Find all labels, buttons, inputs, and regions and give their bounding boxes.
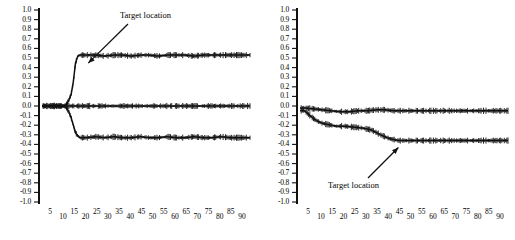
x-tick-label: 20	[82, 213, 90, 220]
x-tick-label: 75	[463, 208, 471, 215]
x-tick-label: 85	[227, 208, 235, 215]
x-tick-label: 20	[340, 213, 348, 220]
x-tick-label: 55	[418, 208, 426, 215]
x-tick-label: 80	[474, 213, 482, 220]
chart-panel-right: 1.00.90.80.70.60.50.40.30.20.10.0-0.1-0.…	[258, 0, 515, 240]
x-tick-label: 10	[59, 213, 67, 220]
x-tick-label: 80	[216, 213, 224, 220]
x-tick-label: 5	[306, 208, 310, 215]
x-tick-label: 35	[115, 208, 123, 215]
x-tick-label: 50	[149, 213, 157, 220]
chart-panel-left: 1.00.90.80.70.60.50.40.30.20.10.0-0.1-0.…	[0, 0, 257, 240]
x-tick-label: 40	[384, 213, 392, 220]
x-tick-label: 45	[138, 208, 146, 215]
x-tick-label: 30	[362, 213, 370, 220]
x-tick-label: 25	[93, 208, 101, 215]
x-tick-label: 55	[160, 208, 168, 215]
x-tick-label: 45	[396, 208, 404, 215]
x-axis-labels-left: 51015202530354045505560657075808590	[0, 0, 257, 240]
x-tick-label: 35	[373, 208, 381, 215]
x-tick-label: 65	[440, 208, 448, 215]
x-tick-label: 5	[48, 208, 52, 215]
x-tick-label: 60	[171, 213, 179, 220]
x-tick-label: 70	[194, 213, 202, 220]
x-tick-label: 30	[104, 213, 112, 220]
x-tick-label: 85	[485, 208, 493, 215]
x-tick-label: 25	[351, 208, 359, 215]
x-tick-label: 15	[71, 208, 79, 215]
x-tick-label: 75	[205, 208, 213, 215]
x-axis-labels-right: 51015202530354045505560657075808590	[258, 0, 515, 240]
x-tick-label: 10	[317, 213, 325, 220]
x-tick-label: 60	[429, 213, 437, 220]
x-tick-label: 15	[329, 208, 337, 215]
figure-container: 1.00.90.80.70.60.50.40.30.20.10.0-0.1-0.…	[0, 0, 515, 240]
x-tick-label: 40	[126, 213, 134, 220]
x-tick-label: 90	[238, 213, 246, 220]
x-tick-label: 65	[182, 208, 190, 215]
x-tick-label: 50	[407, 213, 415, 220]
x-tick-label: 90	[496, 213, 504, 220]
x-tick-label: 70	[452, 213, 460, 220]
